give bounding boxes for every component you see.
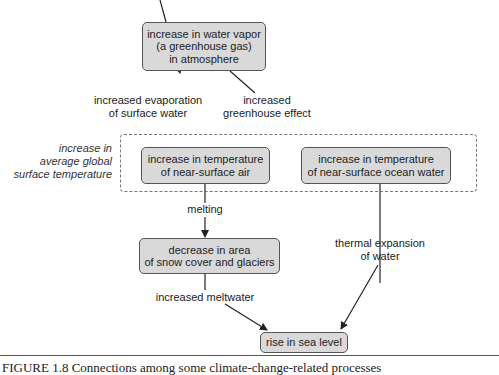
- edge-label-greenhouse: increased greenhouse effect: [222, 94, 312, 120]
- node-text: of snow cover and glaciers: [144, 256, 274, 269]
- node-air-temperature: increase in temperature of near-surface …: [141, 147, 270, 184]
- node-water-vapor: increase in water vapor (a greenhouse ga…: [142, 22, 266, 71]
- node-sea-level: rise in sea level: [260, 332, 348, 353]
- node-text: in atmosphere: [169, 53, 239, 66]
- region-label-line: average global: [8, 155, 112, 168]
- edge-label-thermal: thermal expansion of water: [330, 237, 430, 263]
- node-text: increase in temperature: [148, 153, 264, 166]
- node-text: rise in sea level: [266, 336, 342, 349]
- edge-label-line: thermal expansion: [330, 237, 430, 250]
- edge-label-line: of surface water: [92, 107, 204, 120]
- edge-label-line: increased meltwater: [155, 291, 255, 304]
- node-text: increase in water vapor: [147, 28, 261, 41]
- node-text: increase in temperature: [318, 153, 434, 166]
- edge-label-line: increased evaporation: [92, 94, 204, 107]
- node-text: of near-surface ocean water: [308, 166, 445, 179]
- region-label: increase in average global surface tempe…: [8, 142, 112, 181]
- edge-thermal-lower: [341, 265, 378, 329]
- edge-label-line: greenhouse effect: [222, 107, 312, 120]
- region-label-line: increase in: [8, 142, 112, 155]
- region-label-line: surface temperature: [8, 168, 112, 181]
- caption-divider: [0, 355, 499, 356]
- edge-label-line: of water: [330, 250, 430, 263]
- edge-label-evaporation: increased evaporation of surface water: [92, 94, 204, 120]
- node-snow-cover: decrease in area of snow cover and glaci…: [139, 238, 280, 274]
- node-ocean-temperature: increase in temperature of near-surface …: [301, 147, 451, 184]
- edge-greenhouse-upper: [230, 71, 255, 93]
- edge-label-melting: melting: [180, 203, 230, 216]
- edge-label-line: increased: [222, 94, 312, 107]
- node-text: decrease in area: [169, 244, 251, 257]
- node-text: (a greenhouse gas): [156, 40, 251, 53]
- figure-caption: FIGURE 1.8 Connections among some climat…: [2, 361, 381, 375]
- node-text: of near-surface air: [161, 166, 250, 179]
- edge-label-line: melting: [180, 203, 230, 216]
- edge-label-meltwater: increased meltwater: [155, 291, 255, 304]
- edge-meltwater-lower: [225, 304, 267, 330]
